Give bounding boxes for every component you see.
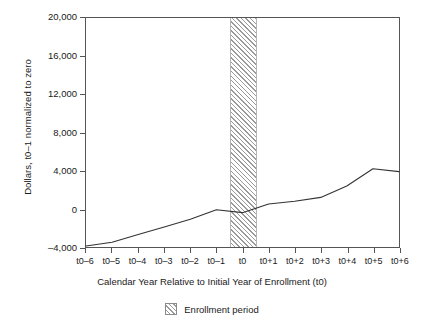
data-series-line: [86, 18, 399, 247]
x-axis-title: Calendar Year Relative to Initial Year o…: [0, 276, 424, 287]
x-tick-mark: [400, 248, 401, 253]
chart-legend: Enrollment period: [0, 303, 424, 315]
y-tick-mark: [80, 94, 85, 95]
x-tick-mark: [348, 248, 349, 253]
y-tick-mark: [80, 133, 85, 134]
x-tick-mark: [85, 248, 86, 253]
y-tick-mark: [80, 17, 85, 18]
y-tick-label: 20,000: [17, 12, 77, 22]
legend-item-label: Enrollment period: [184, 304, 258, 315]
x-tick-label: t0+6: [378, 256, 422, 267]
x-tick-mark: [295, 248, 296, 253]
y-tick-label: 16,000: [17, 51, 77, 61]
x-tick-mark: [321, 248, 322, 253]
x-tick-mark: [374, 248, 375, 253]
y-tick-mark: [80, 210, 85, 211]
x-tick-mark: [216, 248, 217, 253]
x-tick-mark: [269, 248, 270, 253]
x-tick-mark: [243, 248, 244, 253]
y-tick-label: 4,000: [17, 166, 77, 176]
y-tick-label: –4,000: [17, 243, 77, 253]
enrollment-period-swatch-icon: [165, 303, 177, 315]
x-tick-mark: [190, 248, 191, 253]
chart-figure: Dollars, t0–1 normalized to zero –4,0000…: [0, 0, 424, 327]
x-tick-mark: [138, 248, 139, 253]
plot-area: [85, 17, 400, 248]
y-tick-label: 8,000: [17, 128, 77, 138]
y-tick-mark: [80, 171, 85, 172]
x-tick-mark: [111, 248, 112, 253]
y-tick-label: 0: [17, 205, 77, 215]
y-tick-mark: [80, 56, 85, 57]
x-tick-mark: [164, 248, 165, 253]
y-tick-label: 12,000: [17, 89, 77, 99]
